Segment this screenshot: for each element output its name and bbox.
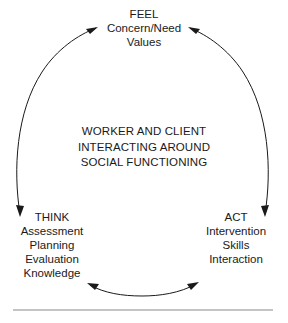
- node-act: ACT Intervention Skills Interaction: [186, 210, 286, 266]
- node-feel-line-1: Concern/Need: [84, 21, 204, 35]
- node-act-line-1: Intervention: [186, 224, 286, 238]
- node-think-line-2: Planning: [2, 238, 102, 252]
- center-caption: WORKER AND CLIENT INTERACTING AROUND SOC…: [49, 124, 239, 171]
- node-feel-line-2: Values: [84, 35, 204, 49]
- node-think-line-3: Evaluation: [2, 252, 102, 266]
- arc-act-to-feel: [190, 28, 268, 214]
- node-feel-title: FEEL: [84, 7, 204, 21]
- arc-act-to-think: [90, 284, 196, 296]
- node-feel: FEEL Concern/Need Values: [84, 7, 204, 49]
- node-think-line-4: Knowledge: [2, 266, 102, 280]
- node-act-title: ACT: [186, 210, 286, 224]
- node-think-title: THINK: [2, 210, 102, 224]
- arc-think-to-feel: [17, 28, 96, 214]
- node-act-line-2: Skills: [186, 238, 286, 252]
- node-think: THINK Assessment Planning Evaluation Kno…: [2, 210, 102, 280]
- center-caption-line-1: WORKER AND CLIENT: [49, 124, 239, 140]
- node-act-line-3: Interaction: [186, 252, 286, 266]
- center-caption-line-2: INTERACTING AROUND: [49, 140, 239, 156]
- center-caption-line-3: SOCIAL FUNCTIONING: [49, 155, 239, 171]
- arrowhead-act-bottom-icon: [187, 282, 199, 290]
- node-think-line-1: Assessment: [2, 224, 102, 238]
